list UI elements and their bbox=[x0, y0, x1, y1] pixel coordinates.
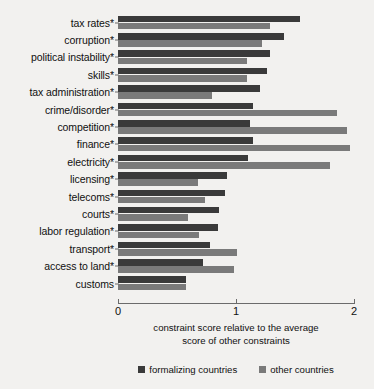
x-axis-tick-label-2: 2 bbox=[351, 305, 357, 317]
bar-other-countries bbox=[118, 214, 188, 221]
bar-row: courts* bbox=[0, 205, 374, 222]
bar-row: customs bbox=[0, 275, 374, 292]
bar-formalizing-countries bbox=[118, 259, 203, 266]
bar-row: crime/disorder* bbox=[0, 101, 374, 118]
bar-row: access to land* bbox=[0, 257, 374, 274]
bar-other-countries bbox=[118, 110, 337, 117]
bar-other-countries bbox=[118, 127, 347, 134]
bar-formalizing-countries bbox=[118, 207, 219, 214]
category-label-skills: skills* bbox=[88, 69, 114, 81]
bar-other-countries bbox=[118, 197, 205, 204]
bar-row: political instability* bbox=[0, 49, 374, 66]
category-label-tax-administration: tax administration* bbox=[30, 86, 114, 98]
bar-row: electricity* bbox=[0, 153, 374, 170]
category-label-courts: courts* bbox=[82, 208, 114, 220]
bar-row: skills* bbox=[0, 66, 374, 83]
legend-label-other-countries: other countries bbox=[270, 364, 333, 375]
bar-other-countries bbox=[118, 232, 199, 239]
category-label-finance: finance* bbox=[77, 138, 114, 150]
bar-formalizing-countries bbox=[118, 276, 186, 283]
bar-row: telecoms* bbox=[0, 188, 374, 205]
bar-row: transport* bbox=[0, 240, 374, 257]
category-label-telecoms: telecoms* bbox=[69, 191, 114, 203]
bar-rows: tax rates*corruption*political instabili… bbox=[0, 14, 374, 292]
plot-area: tax rates*corruption*political instabili… bbox=[0, 0, 374, 312]
category-label-licensing: licensing* bbox=[70, 173, 114, 185]
bar-row: corruption* bbox=[0, 31, 374, 48]
bar-row: labor regulation* bbox=[0, 223, 374, 240]
x-axis-tick-0 bbox=[118, 299, 119, 304]
category-label-competition: competition* bbox=[57, 121, 114, 133]
bar-formalizing-countries bbox=[118, 16, 300, 23]
bar-formalizing-countries bbox=[118, 137, 253, 144]
category-label-customs: customs bbox=[76, 278, 114, 290]
x-axis-tick-label-1: 1 bbox=[233, 305, 239, 317]
bar-other-countries bbox=[118, 266, 234, 273]
x-axis-title: constraint score relative to the average… bbox=[118, 322, 354, 347]
category-label-corruption: corruption* bbox=[64, 34, 114, 46]
x-axis-tick-1 bbox=[236, 299, 237, 304]
bar-formalizing-countries bbox=[118, 68, 267, 75]
bar-chart: tax rates*corruption*political instabili… bbox=[0, 0, 374, 389]
bar-row: finance* bbox=[0, 136, 374, 153]
category-label-political-instability: political instability* bbox=[31, 51, 114, 63]
legend-swatch-formalizing-countries bbox=[138, 366, 145, 373]
bar-other-countries bbox=[118, 58, 247, 65]
legend-swatch-other-countries bbox=[259, 366, 266, 373]
category-label-crime-disorder: crime/disorder* bbox=[45, 104, 114, 116]
x-axis-title-line-1: constraint score relative to the average bbox=[118, 322, 354, 335]
bar-formalizing-countries bbox=[118, 85, 260, 92]
bar-other-countries bbox=[118, 40, 262, 47]
bar-formalizing-countries bbox=[118, 103, 253, 110]
bar-other-countries bbox=[118, 75, 247, 82]
category-label-tax-rates: tax rates* bbox=[71, 17, 114, 29]
bar-row: licensing* bbox=[0, 171, 374, 188]
bar-other-countries bbox=[118, 162, 330, 169]
bar-row: competition* bbox=[0, 118, 374, 135]
legend-item-other-countries: other countries bbox=[259, 364, 333, 375]
bar-formalizing-countries bbox=[118, 33, 284, 40]
bar-formalizing-countries bbox=[118, 190, 225, 197]
bar-formalizing-countries bbox=[118, 172, 227, 179]
x-axis-title-line-2: score of other constraints bbox=[118, 335, 354, 348]
legend-item-formalizing-countries: formalizing countries bbox=[138, 364, 237, 375]
bar-row: tax administration* bbox=[0, 84, 374, 101]
bar-formalizing-countries bbox=[118, 242, 210, 249]
bar-formalizing-countries bbox=[118, 155, 248, 162]
bar-other-countries bbox=[118, 249, 237, 256]
bar-other-countries bbox=[118, 23, 270, 30]
bar-formalizing-countries bbox=[118, 50, 270, 57]
bar-other-countries bbox=[118, 179, 198, 186]
category-label-transport: transport* bbox=[69, 243, 114, 255]
bar-other-countries bbox=[118, 92, 212, 99]
chart-legend: formalizing countries other countries bbox=[118, 364, 354, 375]
bar-formalizing-countries bbox=[118, 224, 218, 231]
bar-formalizing-countries bbox=[118, 120, 250, 127]
legend-label-formalizing-countries: formalizing countries bbox=[149, 364, 237, 375]
category-label-electricity: electricity* bbox=[67, 156, 114, 168]
bar-row: tax rates* bbox=[0, 14, 374, 31]
x-axis-tick-2 bbox=[354, 299, 355, 304]
bar-other-countries bbox=[118, 284, 186, 291]
category-label-access-to-land: access to land* bbox=[44, 260, 114, 272]
bar-other-countries bbox=[118, 145, 350, 152]
category-label-labor-regulation: labor regulation* bbox=[39, 225, 114, 237]
x-axis-tick-label-0: 0 bbox=[115, 305, 121, 317]
